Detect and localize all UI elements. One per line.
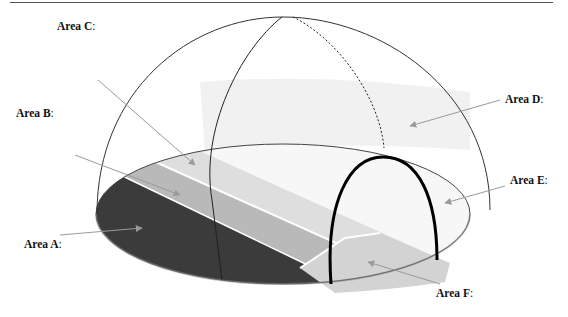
label-area-f: Area F: <box>436 287 473 299</box>
arrow-c <box>98 80 195 165</box>
label-area-e: Area E: <box>510 174 548 186</box>
area-d-region <box>200 79 470 152</box>
label-area-a: Area A: <box>24 238 62 250</box>
label-area-d: Area D: <box>505 93 543 105</box>
dome-diagram <box>0 0 568 317</box>
label-area-c: Area C: <box>57 20 95 32</box>
label-area-b: Area B: <box>16 107 54 119</box>
